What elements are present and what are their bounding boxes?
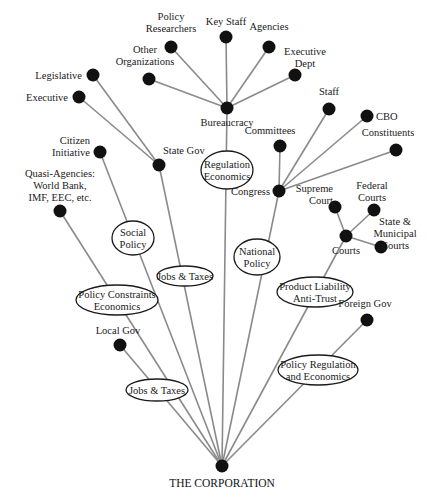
node-committees [274,140,287,153]
label-constituents: Constituents [362,127,415,138]
label-staff: Staff [319,86,340,97]
node-legislative [87,69,100,82]
node-executive [73,91,86,104]
svg-text:Policy: Policy [120,239,148,250]
edge-agencies [227,47,269,108]
label-keystaff: Key Staff [206,16,247,27]
edge-policyres [171,47,227,108]
label-citizen: CitizenInitiative [52,135,91,158]
svg-text:Jobs & Taxes: Jobs & Taxes [129,385,185,396]
edge-executive [79,97,159,165]
node-otherorg [143,73,156,86]
edge-staff [279,109,329,191]
svg-text:Anti-Trust: Anti-Trust [293,293,337,304]
svg-text:Economics: Economics [94,301,141,312]
label-localgov: Local Gov [96,325,141,336]
svg-text:Economics: Economics [204,171,251,182]
node-courts [340,230,353,243]
diagram-svg: RegulationEconomicsSocialPolicyJobs & Ta… [0,0,444,502]
node-stategov [153,159,166,172]
edge-congress [222,191,279,466]
svg-text:and Economics: and Economics [286,371,350,382]
label-cbo: CBO [376,111,398,122]
node-corp [216,460,229,473]
edge-label-natpol: NationalPolicy [234,239,280,275]
label-quasi: Quasi-Agencies:World Bank,IMF, EEC, etc. [25,168,95,203]
node-constituents [390,144,403,157]
node-cbo [361,110,374,123]
edge-label-polreg: Policy Regulationand Economics [278,355,358,385]
label-supreme: SupremeCourt [296,183,334,206]
svg-text:Policy Regulation: Policy Regulation [280,359,356,370]
svg-text:National: National [239,246,275,257]
node-citizen [94,146,107,159]
corporation-influence-diagram: RegulationEconomicsSocialPolicyJobs & Ta… [0,0,444,502]
edge-label-polcon: Policy ConstraintsEconomics [76,285,158,315]
node-federal [368,204,381,217]
label-executive: Executive [26,92,68,103]
edge-label-jobs2: Jobs & Taxes [126,379,188,401]
edge-keystaff [226,37,227,108]
label-foreigngov: Foreign Gov [338,298,392,309]
label-stategov: State Gov [163,145,205,156]
edge-label-jobs1: Jobs & Taxes [157,266,213,286]
label-courts: Courts [332,245,360,256]
svg-text:Regulation: Regulation [204,159,251,170]
svg-text:Policy Constraints: Policy Constraints [78,289,155,300]
edge-committees [279,146,280,191]
svg-text:Social: Social [120,227,146,238]
edge-label-regecon: RegulationEconomics [201,151,253,189]
edge-localgov [120,345,222,466]
edge-otherorg [149,79,227,108]
label-agencies: Agencies [249,21,288,32]
node-foreigngov [361,314,374,327]
label-legislative: Legislative [35,70,82,81]
node-policyres [165,41,178,54]
node-bureaucracy [221,102,234,115]
label-execdept: ExecutiveDept [284,46,326,69]
node-keystaff [220,31,233,44]
svg-text:Product Liability: Product Liability [279,281,351,292]
edge-foreigngov [222,320,367,466]
node-execdept [289,69,302,82]
edge-courts [222,236,346,466]
label-federal: FederalCourts [356,180,388,203]
label-corporation: THE CORPORATION [169,477,275,489]
node-agencies [263,41,276,54]
edge-execdept [227,75,295,108]
label-bureaucracy: Bureaucracy [200,117,254,128]
edge-label-socpol: SocialPolicy [112,221,154,255]
node-quasi [54,205,67,218]
node-staff [323,103,336,116]
node-labels: PolicyResearchersKey StaffAgenciesOtherO… [25,11,417,489]
node-congress [273,185,286,198]
svg-text:Jobs & Taxes: Jobs & Taxes [157,271,213,282]
label-congress: Congress [231,186,270,197]
label-policyres: PolicyResearchers [146,11,197,34]
node-localgov [114,339,127,352]
svg-text:Policy: Policy [244,258,272,269]
edge-stategov [159,165,222,466]
